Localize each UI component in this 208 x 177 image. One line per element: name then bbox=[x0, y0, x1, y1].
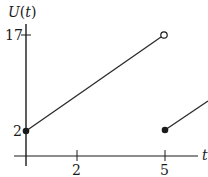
y-tick-label-17: 17 bbox=[5, 27, 23, 43]
filled-point-start-segment-1 bbox=[23, 128, 30, 135]
series-segment-1 bbox=[26, 37, 161, 131]
x-tick-label-2: 2 bbox=[72, 162, 81, 177]
series-segment-2 bbox=[165, 101, 208, 130]
x-axis-label: t bbox=[202, 147, 208, 163]
filled-point-start-segment-2 bbox=[162, 127, 169, 134]
open-point-end-segment-1 bbox=[161, 32, 167, 38]
y-axis-label: U(t) bbox=[8, 4, 36, 20]
y-tick-label-2: 2 bbox=[13, 123, 22, 139]
piecewise-function-chart: U(t) 17 2 2 5 t bbox=[0, 0, 208, 177]
x-tick-label-5: 5 bbox=[160, 162, 169, 177]
